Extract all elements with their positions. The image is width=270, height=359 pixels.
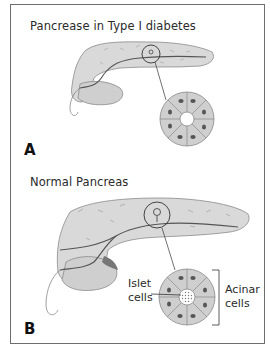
pancreas-illustration <box>0 0 270 359</box>
pancreas-b <box>46 198 249 315</box>
islet-cells-icon <box>181 291 193 303</box>
acinus-cluster-b <box>159 269 215 325</box>
acinus-cluster-a <box>160 92 214 146</box>
